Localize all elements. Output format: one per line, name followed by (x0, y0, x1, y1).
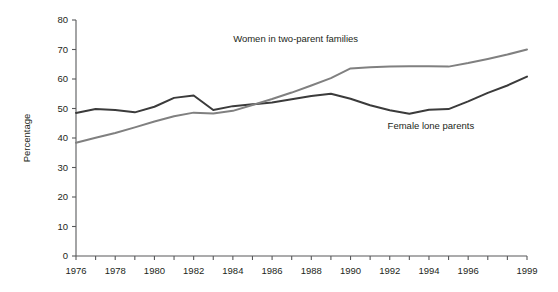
x-axis-tick-label: 1980 (144, 265, 165, 276)
y-axis-title-label: Percentage (21, 114, 32, 163)
x-axis-tick-label: 1988 (301, 265, 322, 276)
x-axis-tick-label: 1999 (516, 265, 537, 276)
y-axis-tick-label: 80 (57, 14, 68, 25)
chart-page: 01020304050607080 1976197819801982198419… (0, 0, 558, 292)
series-inline-label: Female lone parents (388, 120, 475, 131)
y-axis-tick-label: 30 (57, 162, 68, 173)
y-axis-tick-label: 10 (57, 221, 68, 232)
x-axis-tick-label: 1994 (418, 265, 439, 276)
x-axis-tick-label: 1996 (458, 265, 479, 276)
y-axis-tick-label: 20 (57, 191, 68, 202)
y-axis-tick-label: 50 (57, 103, 68, 114)
x-axis-tick-label: 1990 (340, 265, 361, 276)
y-axis-tick-label: 60 (57, 73, 68, 84)
y-axis-tick-label: 70 (57, 44, 68, 55)
series-inline-label: Women in two-parent families (233, 33, 358, 44)
y-axis-title: Percentage (21, 114, 32, 163)
x-axis-tick-label: 1978 (105, 265, 126, 276)
x-axis-tick-label: 1976 (65, 265, 86, 276)
y-axis-tick-label: 0 (63, 250, 68, 261)
x-axis-tick-label: 1986 (262, 265, 283, 276)
x-axis-tick-label: 1982 (183, 265, 204, 276)
x-axis-tick-label: 1984 (222, 265, 243, 276)
x-axis-tick-label: 1992 (379, 265, 400, 276)
line-chart: 01020304050607080 1976197819801982198419… (0, 0, 558, 292)
y-axis-tick-label: 40 (57, 132, 68, 143)
